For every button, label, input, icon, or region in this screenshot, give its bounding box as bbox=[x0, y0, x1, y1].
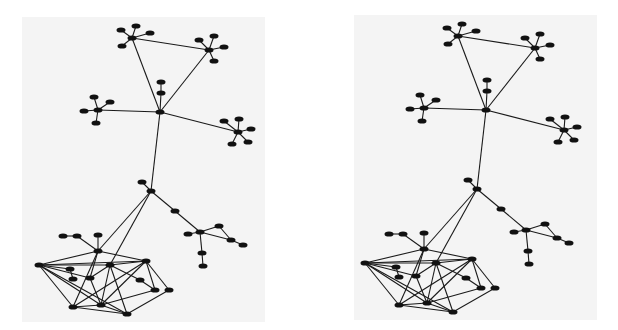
graph-edge bbox=[403, 234, 424, 249]
graph-node bbox=[473, 186, 482, 191]
graph-node bbox=[525, 261, 534, 266]
graph-node bbox=[412, 273, 421, 278]
graph-node bbox=[573, 124, 582, 129]
graph-node bbox=[497, 206, 506, 211]
graph-node bbox=[385, 231, 394, 236]
graph-node bbox=[444, 41, 453, 46]
graph-node bbox=[420, 230, 429, 235]
graph-node bbox=[541, 221, 550, 226]
graph-node bbox=[521, 35, 530, 40]
graph-edge bbox=[424, 108, 486, 110]
graph-node bbox=[392, 264, 401, 269]
graph-node bbox=[553, 235, 562, 240]
graph-node bbox=[406, 106, 415, 111]
graph-node bbox=[482, 107, 491, 112]
graph-node bbox=[399, 231, 408, 236]
graph-node bbox=[522, 227, 531, 232]
graph-edge bbox=[486, 48, 535, 110]
graph-edge bbox=[472, 259, 481, 288]
graph-node bbox=[432, 97, 441, 102]
graph-node bbox=[449, 309, 458, 314]
graph-edge bbox=[458, 36, 486, 110]
graph-edge bbox=[477, 189, 501, 209]
graph-node bbox=[395, 302, 404, 307]
network-graph-right bbox=[0, 0, 618, 330]
graph-node bbox=[565, 240, 574, 245]
graph-node bbox=[554, 139, 563, 144]
graph-edge bbox=[365, 263, 416, 276]
graph-node bbox=[570, 137, 579, 142]
graph-node bbox=[472, 28, 481, 33]
graph-edge bbox=[399, 305, 453, 312]
graph-node bbox=[420, 105, 429, 110]
graph-node bbox=[524, 248, 533, 253]
graph-node bbox=[483, 77, 492, 82]
graph-node bbox=[531, 45, 540, 50]
graph-node bbox=[561, 114, 570, 119]
graph-node bbox=[536, 31, 545, 36]
graph-edge bbox=[477, 110, 486, 189]
graph-node bbox=[418, 118, 427, 123]
graph-node bbox=[361, 260, 370, 265]
graph-node bbox=[443, 25, 452, 30]
graph-edge bbox=[501, 209, 526, 230]
graph-edge bbox=[424, 249, 472, 259]
graph-node bbox=[464, 177, 473, 182]
graph-edge bbox=[453, 288, 495, 312]
graph-node bbox=[560, 127, 569, 132]
graph-node bbox=[395, 274, 404, 279]
graph-node bbox=[420, 246, 429, 251]
graph-node bbox=[546, 116, 555, 121]
graph-edge bbox=[436, 189, 477, 263]
graph-node bbox=[468, 256, 477, 261]
graph-node bbox=[432, 260, 441, 265]
graph-edge bbox=[365, 263, 399, 305]
graph-node bbox=[477, 285, 486, 290]
graph-node bbox=[536, 56, 545, 61]
graph-edge bbox=[424, 189, 477, 249]
graph-edge bbox=[526, 230, 557, 238]
graph-edge bbox=[526, 230, 528, 251]
graph-node bbox=[454, 33, 463, 38]
graph-node bbox=[491, 285, 500, 290]
graph-node bbox=[510, 229, 519, 234]
graph-node bbox=[546, 42, 555, 47]
graph-node bbox=[416, 92, 425, 97]
graph-node bbox=[423, 300, 432, 305]
graph-edge bbox=[486, 91, 487, 110]
graph-node bbox=[462, 275, 471, 280]
graph-node bbox=[458, 21, 467, 26]
graph-node bbox=[483, 88, 492, 93]
